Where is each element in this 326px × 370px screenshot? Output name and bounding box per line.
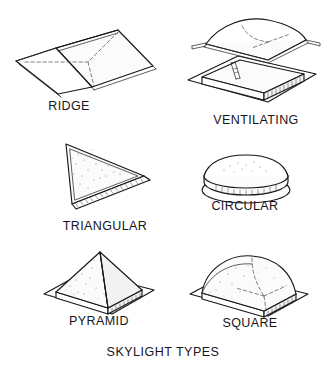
label-pyramid: PYRAMID bbox=[40, 314, 158, 328]
label-triangular: TRIANGULAR bbox=[40, 219, 170, 233]
figure-pyramid bbox=[40, 250, 158, 322]
figure-square bbox=[186, 252, 314, 322]
label-circular: CIRCULAR bbox=[190, 199, 300, 213]
figure-triangular bbox=[58, 140, 162, 212]
label-ventilating: VENTILATING bbox=[196, 113, 316, 127]
diagram-title: SKYLIGHT TYPES bbox=[0, 345, 326, 359]
label-ridge: RIDGE bbox=[26, 99, 112, 113]
label-square: SQUARE bbox=[192, 316, 308, 330]
figure-ridge bbox=[6, 18, 158, 96]
skylight-types-diagram: RIDGE bbox=[0, 0, 326, 370]
figure-ventilating bbox=[182, 22, 322, 110]
